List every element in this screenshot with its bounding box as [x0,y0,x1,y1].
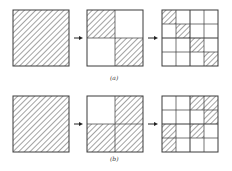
shaded-cell [190,38,204,52]
recursive-subdivision-diagram [0,0,232,171]
shaded-cell [87,124,115,152]
panel-b-1 [13,96,69,152]
arrow-icon [74,36,83,40]
shaded-cell [87,10,115,38]
arrow-icon [74,122,83,126]
shaded-cell [204,96,218,110]
arrow-icon [148,36,158,40]
shaded-cell [204,52,218,66]
panel-b-3 [162,96,218,152]
shaded-cell [162,124,176,138]
shaded-cell [115,96,143,124]
panel-a-1 [13,10,69,66]
panel-a-3 [162,10,218,66]
shaded-cell [190,96,204,110]
shaded-cell [162,10,176,24]
caption-b: (b) [110,155,119,162]
arrow-icon [148,122,158,126]
panel-b-2 [87,96,143,152]
shaded-cell [162,138,176,152]
shaded-cell [13,96,69,152]
shaded-cell [176,24,190,38]
panel-a-2 [87,10,143,66]
caption-a: (a) [110,74,118,81]
shaded-cell [115,124,143,152]
shaded-cell [13,10,69,66]
shaded-cell [115,38,143,66]
shaded-cell [190,124,204,138]
shaded-cell [204,110,218,124]
